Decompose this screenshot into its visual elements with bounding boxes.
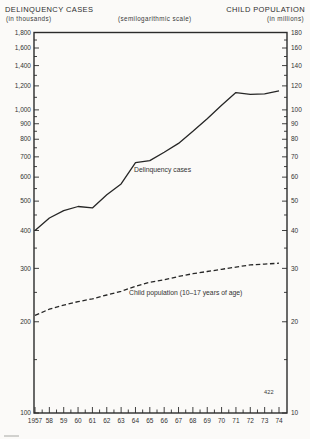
left-axis-tick-label: 500 [20, 197, 31, 204]
right-axis-tick-label: 50 [291, 197, 299, 204]
left-axis-tick-label: 600 [20, 173, 31, 180]
x-axis-year-label: 60 [74, 417, 82, 424]
delinquency-cases-curve [35, 91, 279, 231]
x-axis-year-label: 61 [89, 417, 97, 424]
right-axis-tick-label: 160 [291, 44, 302, 51]
child-population-label: Child population (10–17 years of age) [129, 289, 242, 297]
left-axis-tick-label: 700 [20, 153, 31, 160]
plot-border [34, 33, 287, 414]
right-axis-tick-label: 80 [291, 135, 299, 142]
x-axis-year-label: 66 [161, 417, 169, 424]
x-axis-year-label: 71 [232, 417, 240, 424]
x-axis-year-label: 73 [261, 417, 269, 424]
right-axis-tick-label: 180 [291, 29, 302, 36]
left-axis-tick-label: 1,800 [15, 29, 32, 36]
x-axis-year-label: 74 [275, 417, 283, 424]
x-axis-year-label: 69 [204, 417, 212, 424]
page-number: 422 [264, 389, 274, 395]
right-axis-tick-label: 40 [291, 227, 299, 234]
x-axis-year-label: 67 [175, 417, 183, 424]
cropped-caption-fragment [4, 435, 19, 437]
right-axis-tick-label: 20 [291, 318, 299, 325]
right-axis-tick-label: 120 [291, 82, 302, 89]
x-axis-year-label: 62 [103, 417, 111, 424]
left-axis-tick-label: 200 [20, 318, 31, 325]
left-axis-tick-label: 800 [20, 135, 31, 142]
scanned-chart-page: DELINQUENCY CASES (in thousands) (semilo… [0, 0, 310, 439]
right-axis-tick-label: 140 [291, 62, 302, 69]
left-axis-tick-label: 1,000 [15, 106, 32, 113]
right-axis-tick-label: 10 [291, 409, 299, 416]
x-axis-year-label: 63 [118, 417, 126, 424]
x-axis-year-label: 58 [46, 417, 54, 424]
left-axis-tick-label: 1,400 [15, 62, 32, 69]
x-axis-year-label: 72 [247, 417, 255, 424]
right-axis-tick-label: 90 [291, 120, 299, 127]
right-axis-tick-label: 70 [291, 153, 299, 160]
left-axis-tick-label: 100 [20, 409, 31, 416]
left-axis-tick-label: 1,200 [15, 82, 32, 89]
left-axis-tick-label: 900 [20, 120, 31, 127]
left-axis-tick-label: 1,600 [15, 44, 32, 51]
x-axis-year-label: 59 [60, 417, 68, 424]
right-axis-tick-label: 100 [291, 106, 302, 113]
x-axis-year-label: 64 [132, 417, 140, 424]
right-axis-tick-label: 60 [291, 173, 299, 180]
delinquency-cases-label: Delinquency cases [134, 166, 192, 174]
left-axis-tick-label: 400 [20, 227, 31, 234]
x-axis-year-label: 1957 [28, 417, 43, 424]
x-axis-year-label: 70 [218, 417, 226, 424]
x-axis-year-label: 68 [189, 417, 197, 424]
chart-svg: 1,8001,6001,4001,2001,000900800700600500… [0, 0, 310, 439]
right-axis-tick-label: 30 [291, 265, 299, 272]
x-axis-year-label: 65 [146, 417, 154, 424]
left-axis-tick-label: 300 [20, 265, 31, 272]
